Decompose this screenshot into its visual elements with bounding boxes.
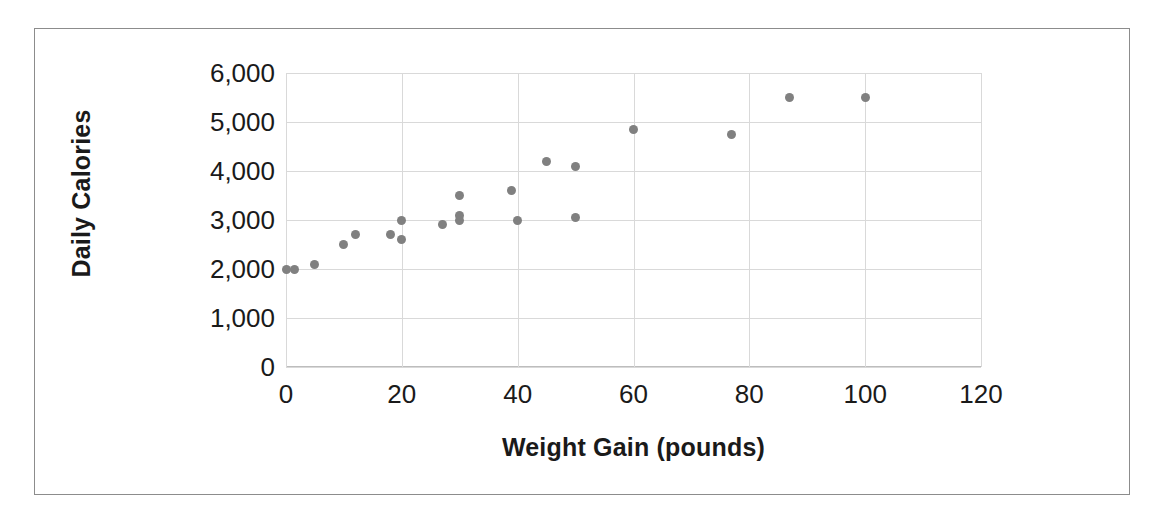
data-point bbox=[397, 235, 406, 244]
x-axis-title: Weight Gain (pounds) bbox=[286, 433, 981, 462]
gridline-vertical bbox=[865, 73, 866, 367]
data-point bbox=[507, 186, 516, 195]
data-point bbox=[785, 93, 794, 102]
gridline-vertical bbox=[981, 73, 982, 367]
x-axis-tick-label: 120 bbox=[959, 381, 1002, 407]
x-axis-tick-label: 80 bbox=[735, 381, 764, 407]
y-axis-tick-label: 4,000 bbox=[210, 158, 275, 184]
data-point bbox=[455, 191, 464, 200]
data-point bbox=[861, 93, 870, 102]
x-axis-tick-label: 0 bbox=[279, 381, 293, 407]
figure-root: 01,0002,0003,0004,0005,0006,000 02040608… bbox=[0, 0, 1161, 526]
data-point bbox=[282, 265, 291, 274]
chart-frame-border: 01,0002,0003,0004,0005,0006,000 02040608… bbox=[34, 28, 1130, 495]
data-point bbox=[438, 220, 447, 229]
x-axis-tick-label: 100 bbox=[843, 381, 886, 407]
y-axis-tick-label: 6,000 bbox=[210, 60, 275, 86]
gridline-horizontal bbox=[286, 367, 981, 368]
data-point bbox=[542, 157, 551, 166]
gridline-vertical bbox=[749, 73, 750, 367]
data-point bbox=[351, 230, 360, 239]
data-point bbox=[397, 216, 406, 225]
x-axis-tick-label: 60 bbox=[619, 381, 648, 407]
data-point bbox=[386, 230, 395, 239]
y-axis-tick-label: 2,000 bbox=[210, 256, 275, 282]
y-axis-tick-label: 1,000 bbox=[210, 305, 275, 331]
y-axis-tick-labels: 01,0002,0003,0004,0005,0006,000 bbox=[155, 73, 275, 367]
y-axis-tick-label: 3,000 bbox=[210, 207, 275, 233]
x-axis-tick-label: 40 bbox=[503, 381, 532, 407]
y-axis-tick-label: 0 bbox=[261, 354, 275, 380]
y-axis-title: Daily Calories bbox=[67, 74, 96, 314]
data-point bbox=[455, 216, 464, 225]
gridline-vertical bbox=[286, 73, 287, 367]
y-axis-tick-label: 5,000 bbox=[210, 109, 275, 135]
gridline-vertical bbox=[634, 73, 635, 367]
data-point bbox=[629, 125, 638, 134]
data-point bbox=[310, 260, 319, 269]
data-point bbox=[571, 162, 580, 171]
data-point bbox=[339, 240, 348, 249]
x-axis-tick-labels: 020406080100120 bbox=[286, 381, 981, 417]
x-axis-tick-label: 20 bbox=[387, 381, 416, 407]
data-point bbox=[290, 265, 299, 274]
data-point bbox=[727, 130, 736, 139]
data-point bbox=[513, 216, 522, 225]
scatter-plot-area bbox=[286, 73, 981, 367]
